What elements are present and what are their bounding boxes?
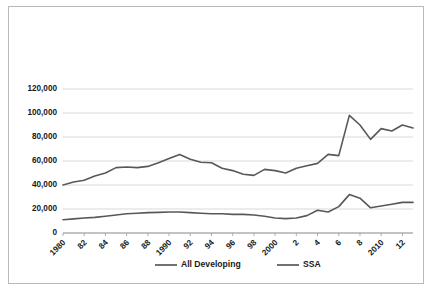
x-axis-tick-label: 2010 <box>366 238 386 258</box>
series-line-all-developing <box>63 115 413 185</box>
x-axis-tick-label: 84 <box>97 238 110 251</box>
series-line-ssa <box>63 195 413 220</box>
x-axis-tick-label: 6 <box>334 238 344 248</box>
x-axis-tick-labels: 19808284868819909294969820002468201012 <box>48 238 407 258</box>
chart-frame: 020,00040,00060,00080,000100,000120,000 … <box>8 6 424 284</box>
y-axis-tick-label: 20,000 <box>32 204 57 213</box>
x-axis-tick-label: 94 <box>203 238 216 251</box>
x-axis-tick-label: 86 <box>118 238 131 251</box>
gridlines <box>63 89 413 233</box>
y-axis-tick-label: 0 <box>52 228 57 237</box>
y-axis-tick-label: 60,000 <box>32 156 57 165</box>
x-axis-tick-label: 92 <box>182 238 195 251</box>
x-axis-tick-label: 2 <box>291 238 301 248</box>
x-axis-tick-label: 1980 <box>48 238 68 258</box>
y-axis-tick-label: 120,000 <box>27 84 57 93</box>
legend-label-ssa: SSA <box>303 259 321 269</box>
x-axis-tick-label: 4 <box>312 238 322 248</box>
y-axis-tick-label: 40,000 <box>32 180 57 189</box>
y-axis-tick-label: 100,000 <box>27 108 57 117</box>
x-axis-tick-label: 2000 <box>260 238 280 258</box>
line-chart: 020,00040,00060,00080,000100,000120,000 … <box>9 7 425 285</box>
data-series-group <box>63 115 413 219</box>
x-axis-tick-label: 88 <box>139 238 152 251</box>
x-axis <box>63 233 413 236</box>
x-axis-tick-label: 12 <box>394 238 407 251</box>
legend-label-all-developing: All Developing <box>181 259 241 269</box>
x-axis-tick-label: 1990 <box>154 238 174 258</box>
x-axis-tick-label: 82 <box>76 238 89 251</box>
y-axis-tick-label: 80,000 <box>32 132 57 141</box>
x-axis-tick-label: 96 <box>224 238 237 251</box>
y-axis-tick-labels: 020,00040,00060,00080,000100,000120,000 <box>27 84 57 237</box>
x-axis-tick-label: 98 <box>246 238 259 251</box>
x-axis-tick-label: 8 <box>355 238 365 248</box>
chart-legend: All DevelopingSSA <box>155 259 321 269</box>
